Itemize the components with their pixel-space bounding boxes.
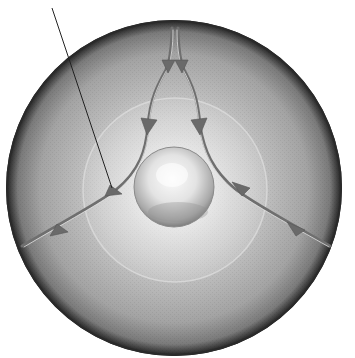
diagram-canvas bbox=[0, 0, 355, 358]
sphere-shadow-band bbox=[148, 202, 208, 222]
sphere-highlight bbox=[156, 163, 188, 187]
central-sphere bbox=[134, 147, 214, 227]
